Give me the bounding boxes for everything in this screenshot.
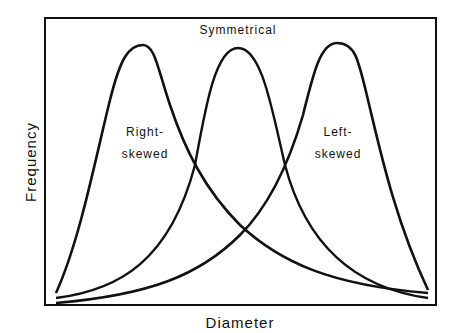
right-skewed-label-line2: skewed: [122, 147, 169, 161]
right-skewed-label-line1: Right-: [126, 125, 164, 139]
plot-frame: [45, 18, 436, 305]
symmetrical-curve: [56, 48, 428, 298]
left-skewed-label-line2: skewed: [315, 147, 362, 161]
x-axis-label: Diameter: [206, 314, 275, 331]
left-skewed-curve: [56, 43, 428, 303]
y-axis-label: Frequency: [22, 122, 39, 202]
symmetrical-label: Symmetrical: [199, 23, 276, 37]
skew-diagram: Symmetrical Right- skewed Left- skewed D…: [0, 0, 455, 333]
right-skewed-curve: [56, 45, 428, 293]
left-skewed-label-line1: Left-: [323, 125, 352, 139]
